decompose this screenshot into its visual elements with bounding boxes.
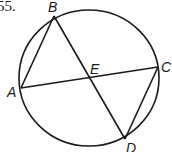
circle-chords-diagram <box>0 0 172 152</box>
segment-cd <box>125 67 158 139</box>
point-label-c: C <box>161 60 171 74</box>
point-label-a: A <box>7 85 16 99</box>
segment-ab <box>21 16 54 88</box>
point-label-e: E <box>90 62 99 76</box>
point-label-d: D <box>126 141 136 152</box>
point-label-b: B <box>48 0 57 14</box>
segment-bd <box>54 16 125 139</box>
